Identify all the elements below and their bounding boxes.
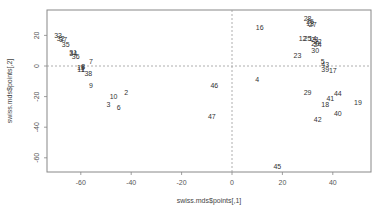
x-axis-label: swiss.mds$points[,1] [177,197,242,205]
x-tick-label: -60 [76,179,86,186]
point-label: 6 [117,104,121,111]
point-label: 47 [208,113,216,120]
point-label: 18 [321,101,329,108]
point-label: 3 [107,101,111,108]
point-label: 46 [210,82,218,89]
x-tick-label: 20 [279,179,287,186]
y-tick-label: 20 [33,31,40,39]
point-label: 4 [255,76,259,83]
y-tick-label: -60 [33,153,40,163]
scatter-plot: -60-40-2002040 200-20-40-60 333237353134… [0,0,380,215]
data-point-labels: 3332373531343678151113891023646471644523… [54,15,362,170]
point-label: 10 [110,93,118,100]
point-label: 30 [311,47,319,54]
point-label: 42 [314,116,322,123]
x-tick-label: 40 [329,179,337,186]
point-label: 29 [304,89,312,96]
point-label: 9 [89,82,93,89]
point-label: 7 [89,58,93,65]
point-label: 36 [72,53,80,60]
x-tick-label: 0 [230,179,234,186]
point-label: 23 [294,52,302,59]
x-axis-ticks: -60-40-2002040 [76,172,337,186]
point-label: 20 [311,40,319,47]
point-label: 17 [329,67,337,74]
point-label: 38 [84,70,92,77]
point-label: 27 [309,21,317,28]
y-axis-label: swiss.mds$points[,2] [6,59,14,124]
point-label: 2 [124,89,128,96]
point-label: 44 [334,90,342,97]
point-label: 11 [77,66,84,73]
point-label: 35 [62,41,70,48]
point-label: 40 [334,110,342,117]
y-tick-label: 0 [33,64,40,68]
y-tick-label: -40 [33,122,40,132]
x-tick-label: -40 [126,179,136,186]
x-tick-label: -20 [177,179,187,186]
point-label: 45 [273,163,281,170]
point-label: 19 [354,99,362,106]
y-tick-label: -20 [33,91,40,101]
point-label: 16 [256,24,264,31]
plot-frame [47,10,371,172]
y-axis-ticks: 200-20-40-60 [33,31,47,162]
reference-lines [47,10,371,172]
